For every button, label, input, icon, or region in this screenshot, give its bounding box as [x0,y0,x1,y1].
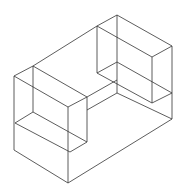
wireframe-edge [117,15,172,46]
wireframe-edge [97,62,117,73]
wireframe-edge [87,93,117,110]
wireframe-edge [33,26,97,66]
wireframe-diagram [0,0,181,187]
wireframe-edge [15,123,70,152]
wireframe-edge [97,15,117,26]
wireframe-edge [68,97,87,107]
wireframe-edge [14,66,33,76]
wireframe-edge [87,80,117,97]
wireframe-edge [33,112,87,142]
wireframe-edge [15,112,33,123]
wireframe-edge [152,93,172,103]
wireframe-edge [97,26,152,57]
wireframe-edge [70,142,87,152]
wireframe-edge [14,76,68,107]
wireframe-edge [14,150,68,183]
wireframe-edge [152,46,172,57]
wireframe-edge [33,66,87,97]
wireframe-edge [68,119,172,183]
